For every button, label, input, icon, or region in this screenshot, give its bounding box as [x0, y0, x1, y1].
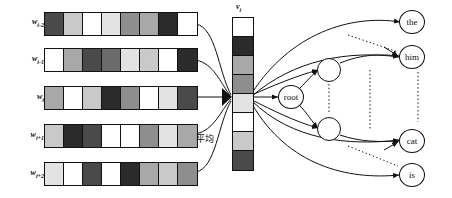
tree-leaf-him[interactable]: him — [399, 45, 425, 69]
context-vector-0 — [44, 12, 198, 36]
tree-node-internal-1[interactable] — [317, 117, 341, 141]
leaf-stub-edges — [384, 47, 398, 150]
vector-cell — [178, 49, 197, 71]
tree-leaf-the[interactable]: the — [399, 10, 425, 34]
context-label-1: wi-1 — [14, 54, 44, 65]
vector-cell — [102, 125, 121, 147]
vector-cell — [233, 75, 253, 94]
vector-cell — [233, 132, 253, 151]
context-label-0: wi-2 — [14, 17, 44, 28]
vector-cell — [159, 125, 178, 147]
tree-node-root[interactable]: root — [278, 85, 304, 109]
context-vector-2 — [44, 86, 198, 110]
vector-cell — [140, 13, 159, 35]
tree-leaf-is[interactable]: is — [399, 163, 425, 187]
internal-to-leaf-edges — [340, 55, 399, 142]
average-annotation: 平均 — [196, 132, 214, 145]
context-vector-4 — [44, 162, 198, 186]
context-label-2: wi — [14, 92, 44, 103]
tree-node-internal-0[interactable] — [317, 58, 341, 82]
vector-cell — [233, 18, 253, 37]
vector-cell — [140, 125, 159, 147]
vector-cell — [159, 87, 178, 109]
vector-cell — [45, 87, 64, 109]
vector-cell — [121, 87, 140, 109]
vector-cell — [64, 13, 83, 35]
vector-cell — [64, 87, 83, 109]
projection-vector-label: vi — [236, 2, 241, 13]
vector-cell — [64, 125, 83, 147]
vector-cell — [140, 163, 159, 185]
vector-cell — [121, 13, 140, 35]
projection-to-leaf-edges — [252, 20, 400, 176]
vector-cell — [102, 49, 121, 71]
vector-cell — [233, 113, 253, 132]
vector-cell — [159, 49, 178, 71]
vector-cell — [45, 163, 64, 185]
context-label-4: wi+2 — [14, 168, 44, 179]
tree-leaf-cat[interactable]: cat — [399, 129, 425, 153]
vector-cell — [83, 49, 102, 71]
vector-cell — [140, 87, 159, 109]
vector-cell — [121, 163, 140, 185]
vector-cell — [83, 13, 102, 35]
vector-cell — [178, 87, 197, 109]
vector-cell — [233, 94, 253, 113]
vector-cell — [233, 151, 253, 170]
vector-cell — [64, 163, 83, 185]
vector-cell — [102, 163, 121, 185]
vector-cell — [83, 87, 102, 109]
vector-cell — [178, 13, 197, 35]
context-vector-3 — [44, 124, 198, 148]
projection-vector — [232, 17, 254, 171]
vector-cell — [178, 125, 197, 147]
vector-cell — [233, 56, 253, 75]
vector-cell — [83, 125, 102, 147]
vector-cell — [233, 37, 253, 56]
vector-cell — [140, 49, 159, 71]
vector-cell — [45, 125, 64, 147]
vector-cell — [178, 163, 197, 185]
vector-cell — [102, 13, 121, 35]
context-label-3: wi+1 — [14, 130, 44, 141]
context-vector-1 — [44, 48, 198, 72]
cbow-hierarchical-softmax-diagram: wi-2 wi-1 wi wi+1 — [0, 0, 452, 198]
vector-cell — [121, 125, 140, 147]
vector-cell — [159, 163, 178, 185]
vector-cell — [121, 49, 140, 71]
vector-cell — [64, 49, 83, 71]
vector-cell — [45, 49, 64, 71]
vector-cell — [83, 163, 102, 185]
vector-cell — [45, 13, 64, 35]
vector-cell — [102, 87, 121, 109]
vector-cell — [159, 13, 178, 35]
